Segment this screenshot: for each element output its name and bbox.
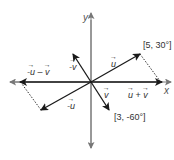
- vector-neg-u: [41, 82, 91, 110]
- neg-u-label: -u: [67, 102, 75, 111]
- u-label: u: [111, 60, 116, 69]
- y-axis-label: y: [83, 13, 88, 23]
- v-polar-label: [3, -60°]: [114, 113, 146, 122]
- vector-diagram: [0, 0, 174, 160]
- x-axis-label: x: [164, 86, 169, 96]
- u-polar-label: [5, 30°]: [143, 41, 172, 50]
- dotted-neg-u-to-neg-sum: [22, 84, 41, 110]
- dotted-u-to-sum: [140, 54, 160, 81]
- u-plus-v-label: u + v: [128, 91, 148, 100]
- neg-v-label: -v: [69, 63, 77, 72]
- neg-u-minus-v-label: -u – v: [27, 68, 50, 77]
- v-label: v: [104, 91, 109, 100]
